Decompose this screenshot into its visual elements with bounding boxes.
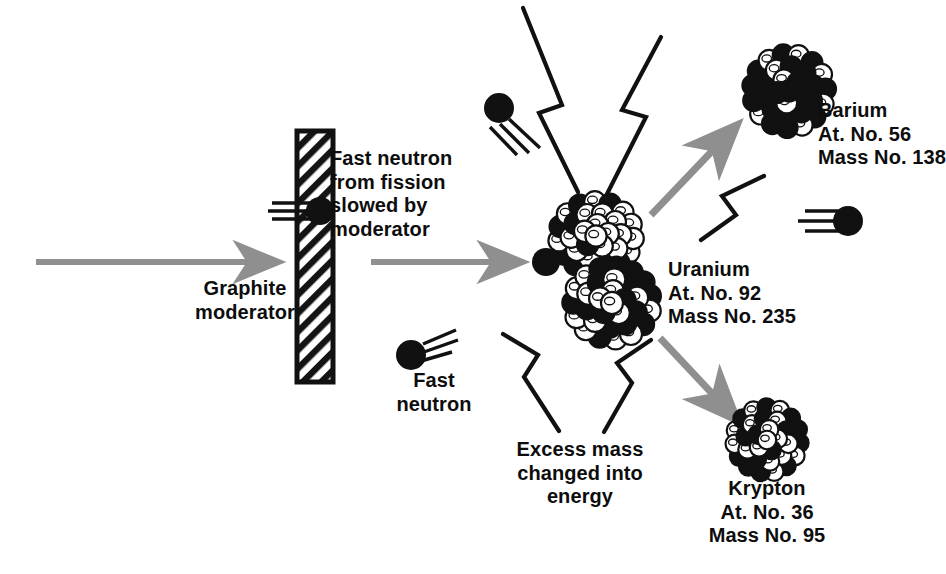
lightning-bolt-icon bbox=[604, 340, 651, 432]
krypton-nucleus bbox=[726, 398, 809, 481]
lightning-bolt-icon bbox=[607, 37, 661, 194]
fast-neutron-slowed-label: Fast neutron from fission slowed by mode… bbox=[330, 147, 452, 241]
graphite-moderator-label: Graphite moderator bbox=[195, 277, 295, 324]
free-neutron-upper-icon bbox=[484, 93, 540, 155]
uranium-label: Uranium At. No. 92 Mass No. 235 bbox=[668, 258, 796, 329]
lightning-bolt-icon bbox=[701, 176, 764, 240]
free-neutron-lower-icon bbox=[396, 330, 458, 370]
lightning-bolt-icon bbox=[503, 334, 559, 431]
fast-neutron-label: Fast neutron bbox=[396, 369, 471, 416]
lightning-bolt-icon bbox=[523, 8, 578, 192]
free-neutron-right-icon bbox=[798, 206, 863, 236]
barium-label: Barium At. No. 56 Mass No. 138 bbox=[818, 99, 946, 170]
excess-mass-label: Excess mass changed into energy bbox=[517, 438, 644, 509]
graphite-moderator-block bbox=[297, 131, 333, 382]
uranium-nucleus bbox=[548, 191, 660, 349]
krypton-arrow bbox=[660, 338, 737, 420]
slow-neutron-arrow bbox=[371, 248, 560, 276]
krypton-label: Krypton At. No. 36 Mass No. 95 bbox=[709, 477, 826, 548]
